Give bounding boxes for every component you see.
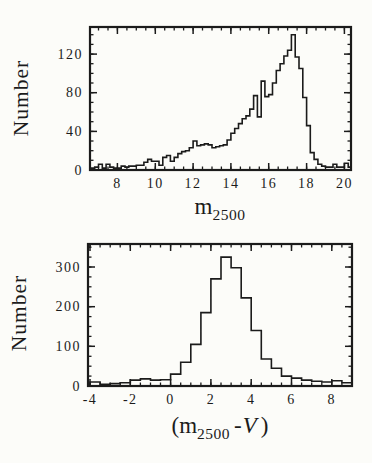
bottom-histogram-panel: -4-2024680100200300 xyxy=(56,244,353,407)
top-x-axis-label-base: m xyxy=(195,194,213,219)
x-tick-label: 6 xyxy=(287,392,296,407)
y-tick-label: 300 xyxy=(56,260,82,275)
y-tick-label: 80 xyxy=(66,85,83,100)
x-tick-label: 8 xyxy=(328,392,337,407)
top-axis-ticks xyxy=(90,27,351,170)
x-tick-label: 18 xyxy=(298,176,315,191)
bottom-axis-ticks xyxy=(88,244,352,386)
x-tick-label: 20 xyxy=(336,176,353,191)
top-histogram-panel: 810121416182004080120 xyxy=(58,27,353,191)
x-tick-label: 4 xyxy=(247,392,256,407)
bottom-x-axis-label-variable: V xyxy=(243,413,257,438)
bottom-plot-box xyxy=(88,244,352,386)
x-tick-label: -2 xyxy=(123,392,138,407)
y-tick-label: 100 xyxy=(56,339,82,354)
y-tick-label: 0 xyxy=(73,379,82,394)
y-tick-label: 200 xyxy=(56,299,82,314)
top-histogram-step-path xyxy=(91,35,351,170)
x-tick-label: 16 xyxy=(260,176,277,191)
bottom-histogram-step-path xyxy=(90,257,352,386)
y-tick-label: 120 xyxy=(58,47,84,62)
histogram-figure-canvas: 810121416182004080120-4-2024680100200300 xyxy=(0,0,372,463)
x-tick-label: 12 xyxy=(185,176,202,191)
x-tick-label: -4 xyxy=(83,392,98,407)
two-panel-histogram-figure: 810121416182004080120-4-2024680100200300… xyxy=(0,0,372,463)
bottom-x-axis-label: (m2500-V) xyxy=(110,413,330,439)
y-tick-label: 0 xyxy=(75,163,84,178)
x-tick-label: 10 xyxy=(147,176,164,191)
x-tick-label: 2 xyxy=(207,392,216,407)
x-tick-label: 8 xyxy=(113,176,122,191)
bottom-x-axis-label-close: ) xyxy=(261,413,269,438)
y-tick-label: 40 xyxy=(66,124,83,139)
x-tick-label: 14 xyxy=(222,176,239,191)
x-tick-label: 0 xyxy=(166,392,175,407)
bottom-x-axis-label-open: (m xyxy=(172,413,198,438)
top-x-axis-label-subscript: 2500 xyxy=(212,206,245,223)
bottom-x-axis-label-subscript: 2500 xyxy=(197,425,230,442)
top-x-axis-label: m2500 xyxy=(110,194,330,220)
top-y-axis-label: Number xyxy=(7,13,35,183)
bottom-tick-labels: -4-2024680100200300 xyxy=(56,260,337,407)
bottom-x-axis-label-minus: - xyxy=(234,413,242,438)
top-plot-box xyxy=(90,27,351,170)
bottom-y-axis-label: Number xyxy=(5,228,33,398)
